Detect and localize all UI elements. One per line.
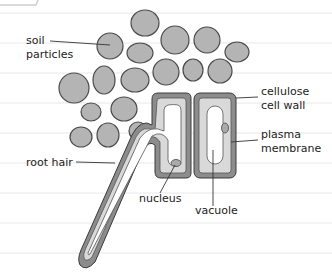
soil-particle xyxy=(131,10,159,36)
soil-particle xyxy=(194,27,220,53)
soil-particle xyxy=(121,68,149,92)
soil-particle xyxy=(97,33,123,59)
membrane-label-line2: membrane xyxy=(261,142,321,155)
nucleus-label: nucleus xyxy=(139,192,182,205)
soil-particle xyxy=(59,73,89,103)
cell-wall-leader xyxy=(236,97,258,98)
root-hair-label: root hair xyxy=(26,156,73,169)
soil-label-line1: soil xyxy=(26,34,45,47)
soil-particle xyxy=(208,59,232,83)
soil-particle xyxy=(81,103,101,121)
membrane-label-line1: plasma xyxy=(261,128,301,141)
soil-label-line2: particles xyxy=(26,48,73,61)
soil-particle xyxy=(93,66,115,94)
vacuole-label: vacuole xyxy=(195,204,238,217)
vacuole xyxy=(207,106,223,164)
root-hair-diagram: soil particles root hair nucleus vacuole… xyxy=(0,0,332,279)
corner-box-edge xyxy=(0,0,38,5)
soil-particle xyxy=(161,26,189,54)
neighbouring-cell xyxy=(194,93,236,178)
soil-particle xyxy=(70,127,92,147)
cell-wall-label-line1: cellulose xyxy=(261,85,309,98)
soil-particle xyxy=(153,59,179,85)
soil-particle xyxy=(111,97,137,121)
nucleus xyxy=(171,160,181,167)
soil-particle xyxy=(127,43,153,63)
nucleus xyxy=(222,123,229,133)
cell-wall-label-line2: cell wall xyxy=(261,99,305,112)
diagram-canvas: soil particles root hair nucleus vacuole… xyxy=(0,0,332,279)
soil-particle xyxy=(225,42,249,62)
soil-particle xyxy=(97,123,119,147)
soil-particle xyxy=(183,59,203,81)
